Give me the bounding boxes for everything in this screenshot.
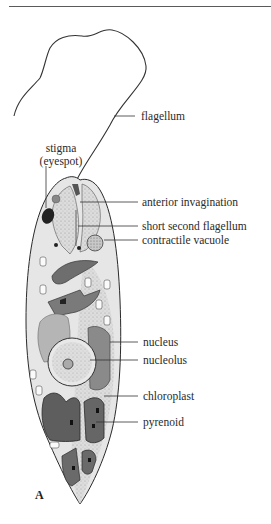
label-chloroplast: chloroplast bbox=[143, 390, 194, 402]
contractile-vacuole bbox=[87, 235, 103, 251]
label-pyrenoid: pyrenoid bbox=[143, 416, 184, 428]
pyrenoid bbox=[70, 420, 73, 425]
label-anterior-invagination: anterior invagination bbox=[142, 196, 238, 208]
chloroplast bbox=[84, 398, 104, 443]
label-contractile-vacuole: contractile vacuole bbox=[142, 234, 229, 246]
panel-letter: A bbox=[35, 488, 44, 503]
label-stigma: stigma bbox=[33, 142, 89, 154]
label-nucleus: nucleus bbox=[143, 336, 178, 348]
label-nucleolus: nucleolus bbox=[143, 354, 187, 366]
chloroplast bbox=[42, 393, 80, 441]
euglena-illustration bbox=[0, 0, 271, 524]
label-eyespot: (eyespot) bbox=[29, 155, 93, 167]
label-short-second-flagellum: short second flagellum bbox=[142, 220, 247, 232]
label-flagellum: flagellum bbox=[141, 110, 185, 122]
nucleolus bbox=[63, 359, 73, 369]
